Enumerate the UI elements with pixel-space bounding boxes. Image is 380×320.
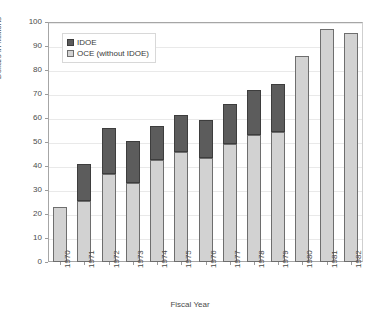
bar-segment-oce (102, 174, 116, 262)
bar-segment-oce (271, 132, 285, 262)
bar-segment-idoe (223, 104, 237, 145)
x-tick-label: 1973 (137, 250, 145, 268)
x-tick-mark (181, 262, 182, 265)
y-tick-label: 60 (20, 114, 42, 122)
legend-label: IDOE (77, 38, 97, 47)
x-tick-mark (230, 262, 231, 265)
bar-segment-oce (295, 56, 309, 262)
bar-chart: Dollars in Millions 01020304050607080901… (0, 0, 380, 320)
x-tick-mark (133, 262, 134, 265)
bar-column (320, 22, 334, 262)
y-tick-label: 70 (20, 90, 42, 98)
x-tick-label: 1971 (88, 250, 96, 268)
x-tick-mark (302, 262, 303, 265)
x-tick-mark (327, 262, 328, 265)
x-tick-mark (109, 262, 110, 265)
y-tick-label: 20 (20, 210, 42, 218)
x-tick-mark (206, 262, 207, 265)
y-tick-label: 50 (20, 138, 42, 146)
bar-column (271, 22, 285, 262)
x-tick-mark (254, 262, 255, 265)
dark-swatch-icon (67, 39, 74, 46)
x-tick-label: 1981 (331, 250, 339, 268)
bar-column (174, 22, 188, 262)
y-tick-label: 40 (20, 162, 42, 170)
bar-column (247, 22, 261, 262)
y-tick-label: 100 (20, 18, 42, 26)
y-tick-label: 0 (20, 258, 42, 266)
x-tick-mark (60, 262, 61, 265)
bar-segment-oce (320, 29, 334, 262)
x-tick-label: 1975 (185, 250, 193, 268)
x-tick-mark (84, 262, 85, 265)
y-tick-label: 10 (20, 234, 42, 242)
bar-column (199, 22, 213, 262)
y-tick-label: 30 (20, 186, 42, 194)
bar-column (223, 22, 237, 262)
x-tick-label: 1977 (234, 250, 242, 268)
x-tick-label: 1978 (258, 250, 266, 268)
bar-segment-idoe (174, 115, 188, 152)
bar-segment-idoe (199, 120, 213, 158)
x-tick-label: 1974 (161, 250, 169, 268)
bar-segment-idoe (102, 128, 116, 175)
bar-segment-oce (223, 144, 237, 262)
y-tick-label: 90 (20, 42, 42, 50)
bar-column (344, 22, 358, 262)
y-tick-mark (45, 262, 48, 263)
x-tick-mark (157, 262, 158, 265)
y-axis-title: Dollars in Millions (0, 0, 3, 108)
x-axis-title: Fiscal Year (0, 300, 380, 309)
x-tick-mark (278, 262, 279, 265)
bar-segment-idoe (150, 126, 164, 160)
legend-item-oce: OCE (without IDOE) (67, 48, 149, 59)
x-tick-label: 1980 (306, 250, 314, 268)
bar-segment-idoe (247, 90, 261, 134)
bar-segment-oce (150, 160, 164, 262)
legend-label: OCE (without IDOE) (77, 49, 149, 58)
bar-segment-oce (174, 152, 188, 262)
x-tick-label: 1982 (355, 250, 363, 268)
y-tick-label: 80 (20, 66, 42, 74)
x-tick-label: 1972 (113, 250, 121, 268)
legend-item-idoe: IDOE (67, 37, 149, 48)
light-swatch-icon (67, 50, 74, 57)
chart-legend: IDOE OCE (without IDOE) (62, 33, 156, 63)
x-tick-label: 1979 (282, 250, 290, 268)
bar-segment-idoe (126, 141, 140, 183)
bar-segment-idoe (77, 164, 91, 201)
bar-segment-idoe (271, 84, 285, 132)
bar-segment-oce (344, 33, 358, 262)
x-tick-label: 1970 (64, 250, 72, 268)
bar-column (295, 22, 309, 262)
bar-segment-oce (247, 135, 261, 262)
bar-segment-oce (199, 158, 213, 262)
x-tick-label: 1976 (210, 250, 218, 268)
x-tick-mark (351, 262, 352, 265)
